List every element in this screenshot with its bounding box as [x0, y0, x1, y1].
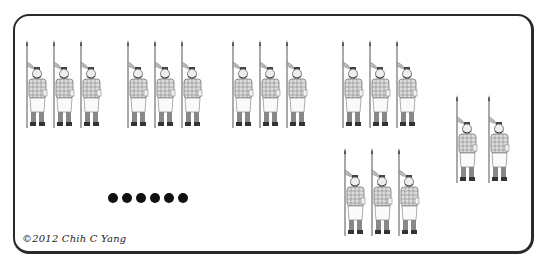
soldier-icon	[255, 40, 283, 130]
dot-icon	[108, 193, 118, 203]
soldier-icon	[365, 40, 393, 130]
dot-icon	[178, 193, 188, 203]
soldier-icon	[22, 40, 50, 130]
soldier-icon	[340, 148, 368, 238]
soldier-icon	[123, 40, 151, 130]
dot-icon	[136, 193, 146, 203]
soldier-icon	[49, 40, 77, 130]
soldier-icon	[282, 40, 310, 130]
dot-icon	[150, 193, 160, 203]
soldier-icon	[150, 40, 178, 130]
soldier-icon	[338, 40, 366, 130]
copyright-text: ©2012 Chih C Yang	[22, 233, 126, 244]
soldier-icon	[76, 40, 104, 130]
dot-icon	[122, 193, 132, 203]
soldier-icon	[367, 148, 395, 238]
soldier-icon	[484, 95, 512, 185]
soldier-icon	[228, 40, 256, 130]
soldier-icon	[392, 40, 420, 130]
soldier-icon	[452, 95, 480, 185]
dot-icon	[164, 193, 174, 203]
soldier-icon	[394, 148, 422, 238]
soldier-icon	[177, 40, 205, 130]
